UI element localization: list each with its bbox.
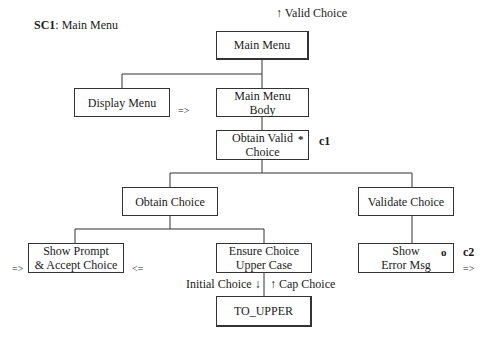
main-menu-body-line1: Main Menu [234, 89, 290, 103]
display-menu-box[interactable]: Display Menu [74, 88, 170, 117]
validate-choice-label: Validate Choice [368, 195, 444, 209]
iteration-mark: * [298, 133, 304, 145]
main-menu-box[interactable]: Main Menu [216, 31, 309, 60]
show-error-flag: => [463, 262, 474, 276]
show-prompt-flag-in: => [12, 262, 23, 276]
main-menu-label: Main Menu [234, 38, 290, 52]
show-error-line1: Show [392, 244, 419, 258]
show-prompt-flag-out: <= [132, 262, 143, 276]
show-prompt-box[interactable]: Show Prompt & Accept Choice [28, 243, 124, 273]
ensure-upper-box[interactable]: Ensure Choice Upper Case [216, 243, 312, 273]
main-menu-body-box[interactable]: Main Menu Body [216, 88, 309, 117]
condition-c2: c2 [463, 245, 474, 260]
show-prompt-line1: Show Prompt [43, 244, 109, 258]
obtain-valid-choice-box[interactable]: Obtain Valid Choice [216, 130, 309, 160]
selection-mark: o [441, 246, 447, 258]
to-upper-box[interactable]: TO_UPPER [216, 296, 312, 327]
obtain-choice-box[interactable]: Obtain Choice [122, 187, 218, 216]
main-menu-body-line2: Body [249, 103, 275, 117]
title-text: : Main Menu [55, 18, 118, 32]
display-menu-label: Display Menu [88, 96, 156, 110]
obtain-valid-choice-line1: Obtain Valid [232, 131, 293, 145]
ensure-upper-line1: Ensure Choice [229, 244, 299, 258]
ensure-upper-line2: Upper Case [236, 258, 292, 272]
validate-choice-box[interactable]: Validate Choice [358, 187, 454, 216]
cap-choice-flow-label: ↑ Cap Choice [270, 277, 335, 291]
show-error-box[interactable]: Show Error Msg [358, 243, 454, 273]
display-menu-flag: => [178, 104, 189, 118]
condition-c1: c1 [319, 134, 330, 149]
to-upper-label: TO_UPPER [234, 304, 293, 318]
show-error-line2: Error Msg [381, 258, 431, 272]
obtain-choice-label: Obtain Choice [135, 195, 205, 209]
initial-choice-flow-label: Initial Choice ↓ [186, 277, 261, 291]
show-prompt-line2: & Accept Choice [35, 258, 118, 272]
valid-choice-flow-label: ↑ Valid Choice [276, 6, 347, 20]
title-code: SC1 [34, 18, 55, 32]
obtain-valid-choice-line2: Choice [246, 145, 280, 159]
diagram-title: SC1: Main Menu [34, 18, 118, 33]
